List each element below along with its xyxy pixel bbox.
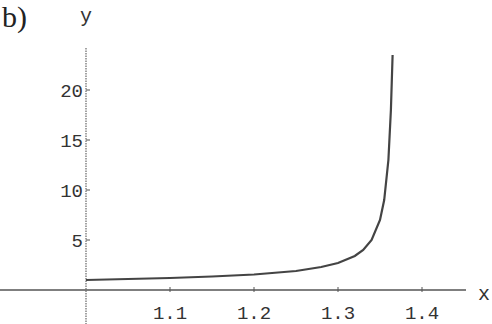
x-tick-label: 1.3 [321, 303, 355, 324]
chart: 1.11.21.31.45101520 x y [0, 0, 492, 324]
y-axis-label: y [80, 5, 92, 28]
y-tick-label: 10 [60, 181, 83, 203]
y-tick-label: 5 [72, 231, 83, 253]
x-axis-label: x [478, 283, 490, 306]
x-tick-label: 1.1 [153, 303, 187, 324]
axes: 1.11.21.31.45101520 [0, 48, 466, 324]
data-curve [86, 55, 393, 280]
y-tick-label: 15 [60, 131, 83, 153]
x-tick-label: 1.2 [237, 303, 271, 324]
x-tick-label: 1.4 [405, 303, 439, 324]
y-tick-label: 20 [60, 81, 83, 103]
